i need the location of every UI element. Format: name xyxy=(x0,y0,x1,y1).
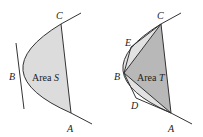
label-e: E xyxy=(124,37,131,48)
label-b-left: B xyxy=(9,71,15,82)
area-t-label: Area T xyxy=(137,72,166,83)
label-c-right: C xyxy=(157,10,164,21)
figure-area-s: C B A Area S xyxy=(9,10,92,134)
parabola-diagram: C B A Area S C E B D A Area T xyxy=(0,0,203,137)
figure-area-t: C E B D A Area T xyxy=(114,10,192,134)
label-a-left: A xyxy=(66,123,74,134)
label-d: D xyxy=(130,100,139,111)
label-c-left: C xyxy=(56,10,63,21)
label-a-right: A xyxy=(167,123,175,134)
area-s-label: Area S xyxy=(32,72,59,83)
segment-s-fill xyxy=(23,24,71,113)
label-b-right: B xyxy=(114,71,120,82)
tangent-at-b xyxy=(16,43,24,109)
